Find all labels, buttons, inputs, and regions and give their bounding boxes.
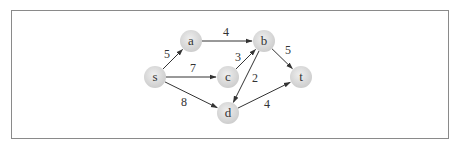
node-a: a [180,30,202,52]
edge-weight-label: 4 [223,25,229,39]
edge-weight-label: 3 [235,50,241,64]
node-b: b [253,30,275,52]
graph-canvas: 57843254 sabcdt [0,0,463,148]
edge-weight-label: 8 [181,95,187,109]
node-label: b [261,33,268,48]
edge-weight-label: 5 [164,47,170,61]
node-label: c [225,69,231,84]
edge-weight-label: 7 [190,61,196,75]
node-label: a [188,33,194,48]
edge-weight-label: 5 [285,43,291,57]
edge-weight-label: 2 [252,71,258,85]
node-label: d [225,105,232,120]
node-c: c [217,66,239,88]
edge-weight-label: 4 [264,97,270,111]
node-label: s [152,69,157,84]
node-t: t [290,66,312,88]
edge-s-d [165,82,217,108]
node-s: s [144,66,166,88]
node-label: t [299,69,303,84]
node-d: d [217,102,239,124]
